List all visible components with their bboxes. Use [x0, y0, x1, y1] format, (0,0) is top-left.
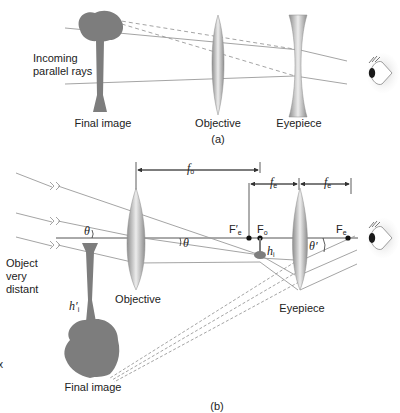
object-label-line3: distant	[6, 283, 38, 296]
objective-label-a: Objective	[195, 117, 241, 130]
caption-a: (a)	[211, 133, 224, 146]
focal-point-fe-prime	[246, 235, 251, 240]
theta-arc-left	[92, 230, 93, 238]
eyepiece-label-a: Eyepiece	[276, 117, 321, 130]
label-fe-prime-point: F′e	[229, 223, 242, 239]
label-hi-prime: h′i	[69, 300, 79, 316]
fe-right-subscript: e	[327, 182, 331, 189]
label-fo-point: Fo	[257, 223, 268, 239]
label-fe-right: fe	[324, 176, 331, 192]
eye-icon-a	[367, 53, 399, 93]
object-label-line2: very	[6, 270, 38, 283]
eyepiece-label-b: Eyepiece	[279, 302, 324, 315]
label-fe-point: Fe	[336, 223, 347, 239]
fe-left-subscript: e	[273, 182, 277, 189]
incoming-label-line1: Incoming	[33, 52, 92, 65]
ray-break-marks	[50, 182, 60, 249]
fe-prime-subscript: e	[238, 229, 242, 236]
final-image-label-b: Final image	[65, 381, 122, 394]
part-a	[65, 11, 399, 117]
eyepiece-lens-a	[289, 15, 307, 117]
caption-b: (b)	[210, 400, 223, 413]
object-distant-label: Object very distant	[6, 257, 38, 296]
objective-lens-b	[127, 188, 145, 290]
fe-prime-symbol: F′	[229, 223, 238, 235]
fo-point-subscript: o	[264, 229, 268, 236]
fo-dimension	[136, 162, 260, 190]
hi-subscript: i	[273, 251, 275, 258]
incoming-rays-label: Incoming parallel rays	[33, 52, 92, 78]
fe-point-symbol: F	[336, 223, 343, 235]
incoming-label-line2: parallel rays	[33, 65, 92, 78]
theta-arc-right	[180, 238, 181, 246]
hi-prime-subscript: i	[78, 306, 80, 313]
intermediate-image-hi	[254, 238, 266, 259]
label-hi: hi	[267, 245, 275, 261]
fo-subscript: o	[190, 168, 194, 175]
objective-lens-a	[212, 15, 224, 115]
final-image-label-a: Final image	[75, 117, 132, 130]
objective-label-b: Objective	[115, 293, 161, 306]
label-theta-prime: θ′	[309, 240, 318, 253]
fe-point-subscript: e	[343, 229, 347, 236]
stray-mark: x	[0, 358, 3, 371]
eye-icon-b	[367, 218, 399, 258]
part-b	[16, 162, 399, 382]
label-fo: fo	[187, 162, 194, 178]
label-fe-left: fe	[270, 176, 277, 192]
label-theta-left: θ	[84, 225, 90, 238]
object-label-line1: Object	[6, 257, 38, 270]
label-theta-right: θ	[183, 237, 189, 250]
fo-point-symbol: F	[257, 223, 264, 235]
hi-prime-symbol: h′	[69, 299, 78, 313]
